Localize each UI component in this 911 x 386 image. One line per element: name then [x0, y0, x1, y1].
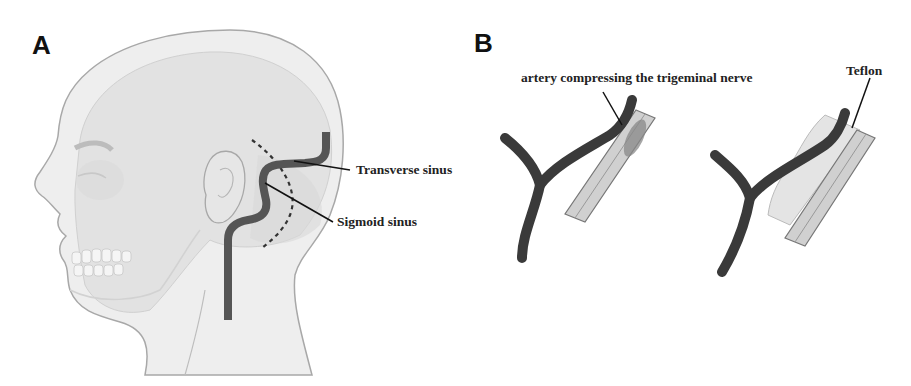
panel-letter-b: B: [474, 28, 493, 59]
artery-left-trunk: [522, 185, 540, 258]
label-teflon: Teflon: [846, 63, 882, 79]
panel-a-illustration: [35, 30, 350, 375]
label-compressing-artery: artery compressing the trigeminal nerve: [521, 70, 752, 86]
figure-canvas: [0, 0, 911, 386]
teflon-leader-line: [852, 78, 870, 128]
panel-b-teflon-illustration: [715, 78, 875, 272]
eye-socket: [76, 160, 124, 200]
panel-letter-a: A: [32, 30, 51, 61]
label-transverse-sinus: Transverse sinus: [356, 162, 452, 178]
label-sigmoid-sinus: Sigmoid sinus: [337, 214, 417, 230]
panel-b-compression-illustration: [505, 92, 655, 258]
artery-right-trunk: [722, 198, 750, 272]
artery-leader-line: [603, 92, 622, 125]
